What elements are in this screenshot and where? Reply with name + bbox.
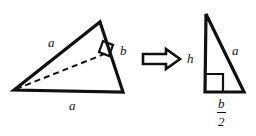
left-triangle-group <box>14 22 123 92</box>
right-triangle-label-hypotenuse: a <box>232 44 239 57</box>
right-triangle-label-base-fraction: b 2 <box>217 97 226 128</box>
left-triangle-altitude-dashed <box>16 53 107 89</box>
right-triangle-right-angle-marker <box>206 74 223 91</box>
left-triangle-label-side-upper-left: a <box>48 36 55 49</box>
right-double-arrow-icon <box>143 49 180 69</box>
left-triangle-right-angle-marker <box>99 41 113 56</box>
left-triangle-label-side-bottom: a <box>69 99 76 112</box>
left-triangle-label-side-right: b <box>120 44 127 57</box>
base-fraction-numerator: b <box>217 97 226 111</box>
right-triangle-label-leg-vertical: h <box>187 52 194 65</box>
implies-arrow-group <box>143 49 180 69</box>
geometry-figure: a a b h a b 2 <box>0 0 256 136</box>
left-triangle-outline <box>14 22 123 92</box>
base-fraction-denominator: 2 <box>217 114 226 128</box>
base-fraction-bar <box>217 112 226 113</box>
